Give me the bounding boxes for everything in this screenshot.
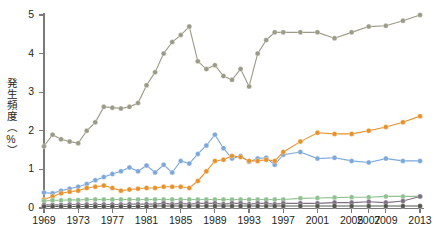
data-point [187,197,192,202]
series-series-khaki [42,13,423,149]
data-point [366,160,371,165]
data-point [400,158,405,163]
data-point [298,196,303,201]
data-point [144,83,149,88]
data-point [383,194,388,199]
data-point [178,33,183,38]
data-point [136,186,141,191]
data-point [161,51,166,56]
data-point [59,198,64,203]
data-point [101,183,106,188]
data-point [204,169,209,174]
data-point [366,24,371,29]
data-point [93,120,98,125]
data-point [298,30,303,35]
data-point [247,158,252,163]
data-point [238,67,243,72]
data-point [212,158,217,163]
data-point [127,197,132,202]
data-point [136,101,141,106]
data-point [366,204,371,209]
data-point [118,197,123,202]
data-point [161,184,166,189]
data-point [315,195,320,200]
data-point [400,204,405,209]
data-point [264,204,269,209]
data-point [93,184,98,189]
data-point [136,197,141,202]
data-point [101,175,106,180]
data-point [221,146,226,151]
series-series-orange [42,114,423,202]
data-point [195,178,200,183]
data-point [136,169,141,174]
data-point [84,197,89,202]
data-point [247,84,252,89]
data-point [281,204,286,209]
data-point [170,204,175,209]
data-point [204,143,209,148]
data-point [93,178,98,183]
data-point [76,141,81,146]
data-point [42,190,47,195]
data-point [101,197,106,202]
data-point [315,204,320,209]
data-point [144,163,149,168]
data-point [212,63,217,68]
data-point [136,204,141,209]
data-point [187,161,192,166]
data-point [281,30,286,35]
data-point [101,204,106,209]
data-point [67,189,72,194]
data-point [195,151,200,156]
data-point [400,18,405,23]
data-point [264,157,269,162]
data-point [383,156,388,161]
data-point [127,104,132,109]
data-point [67,139,72,144]
data-point [110,197,115,202]
data-point [272,30,277,35]
data-point [366,195,371,200]
data-point [272,158,277,163]
data-point [383,204,388,209]
data-point [383,124,388,129]
data-point [204,67,209,72]
data-point [298,204,303,209]
data-point [366,128,371,133]
data-point [127,204,132,209]
data-point [264,38,269,43]
data-point [144,204,149,209]
data-point [349,204,354,209]
data-point [153,170,158,175]
data-point [59,191,64,196]
data-point [187,204,192,209]
data-point [118,169,123,174]
data-point [400,120,405,125]
data-point [118,106,123,111]
data-point [230,77,235,82]
data-point [418,204,423,209]
data-point [84,185,89,190]
data-point [153,70,158,75]
data-point [195,59,200,64]
data-point [187,185,192,190]
data-point [349,158,354,163]
data-point [238,155,243,160]
data-point [281,150,286,155]
data-point [84,204,89,209]
data-point [349,195,354,200]
data-point [418,194,423,199]
data-point [93,204,98,209]
data-point [170,170,175,175]
data-point [42,144,47,149]
data-point [204,204,209,209]
data-point [67,197,72,202]
data-point [298,139,303,144]
data-point [332,131,337,136]
data-point [315,130,320,135]
data-point [221,157,226,162]
data-point [127,165,132,170]
line-chart: 発生頻度（%） 012345 1969197319771981198519891… [0,0,436,240]
data-point [400,199,405,204]
